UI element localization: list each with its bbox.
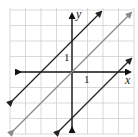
y-tick-label: 1 [64, 52, 70, 63]
coordinate-plane [0, 0, 138, 137]
line-y-equals-x-minus-3 [59, 59, 131, 131]
x-axis-label: x [125, 74, 130, 86]
x-tick-label: 1 [84, 74, 90, 85]
y-axis-label: y [76, 8, 81, 20]
